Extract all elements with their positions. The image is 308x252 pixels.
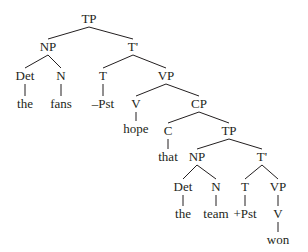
word-that: that <box>158 150 178 164</box>
node-vp-embedded: VP <box>270 180 287 194</box>
node-tp-embedded: TP <box>221 124 236 138</box>
node-c: C <box>164 124 173 138</box>
tree-edge <box>168 112 199 123</box>
word-hope: hope <box>123 122 148 136</box>
node-n-subject: N <box>56 69 65 83</box>
tree-edge <box>136 84 166 96</box>
node-det-subject: Det <box>16 69 35 83</box>
node-n-embedded: N <box>211 180 220 194</box>
word-the-2: the <box>175 207 191 221</box>
tree-edge <box>199 112 229 123</box>
node-tbar-root: T' <box>128 40 138 54</box>
tree-edge <box>48 55 61 68</box>
tree-edge <box>183 165 197 179</box>
node-tp-root: TP <box>81 12 96 26</box>
tree-edge <box>197 165 216 179</box>
node-vp-main: VP <box>158 69 175 83</box>
node-t-embedded: T <box>241 180 249 194</box>
word-plus-pst: +Pst <box>233 207 256 221</box>
tree-edge <box>89 27 133 39</box>
tree-edges <box>0 0 308 252</box>
node-det-embedded: Det <box>174 180 193 194</box>
node-np-embedded: NP <box>189 150 206 164</box>
node-t-root: T <box>99 69 107 83</box>
tree-edge <box>229 139 262 149</box>
word-won: won <box>267 233 289 247</box>
tree-edge <box>245 165 262 179</box>
word-minus-pst: –Pst <box>92 97 114 111</box>
node-cp: CP <box>191 97 207 111</box>
word-the-1: the <box>17 97 33 111</box>
node-v-embedded: V <box>273 207 282 221</box>
word-fans: fans <box>50 97 72 111</box>
node-v-main: V <box>131 97 140 111</box>
syntax-tree: TP NP T' Det N the fans T VP –Pst V CP h… <box>0 0 308 252</box>
tree-edge <box>197 139 229 149</box>
tree-edge <box>133 55 166 68</box>
word-team: team <box>203 207 228 221</box>
node-np-subject: NP <box>40 40 57 54</box>
tree-edge <box>48 27 89 39</box>
node-tbar-embedded: T' <box>257 150 267 164</box>
tree-edge <box>25 55 48 68</box>
tree-edge <box>166 84 199 96</box>
tree-edge <box>103 55 133 68</box>
tree-edge <box>262 165 278 179</box>
